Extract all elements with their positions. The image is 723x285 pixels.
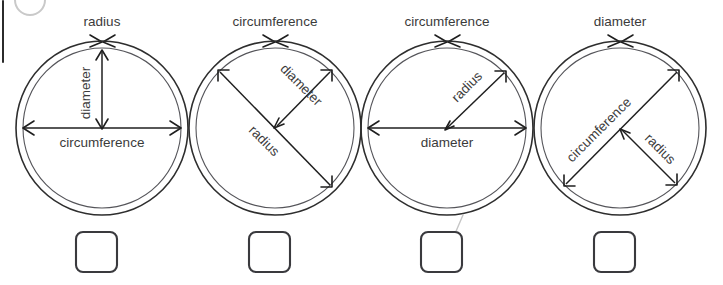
circle-figure-4: diameter circumference radius [530,0,710,285]
figure-1-horizontal-label: circumference [60,135,145,150]
figure-3-radius-label: radius [449,68,486,105]
figure-4-short-diagonal-label: radius [642,131,679,168]
figure-4-long-diagonal-arrow [566,72,677,184]
worksheet-page: radius diameter circumference [0,0,723,285]
scrollbar-sliver[interactable] [2,0,4,63]
figure-2-checkbox[interactable] [249,232,290,272]
circle-figure-2: circumference radius diameter [185,0,365,285]
circle-figure-1: radius diameter circumference [12,0,192,285]
figure-3-horizontal-label: diameter [421,135,474,150]
figure-3-top-label: circumference [405,14,490,29]
figure-2-top-label: circumference [233,14,318,29]
figure-1-top-label: radius [84,14,121,29]
figure-3-checkbox[interactable] [421,232,462,272]
figure-2-long-diagonal-label: radius [246,123,283,160]
figure-4-top-label: diameter [594,14,647,29]
figure-4-checkbox[interactable] [594,232,635,272]
figure-4-outer-ring [534,41,706,215]
figure-1-checkbox[interactable] [76,232,117,272]
figure-1-vertical-label: diameter [78,66,93,119]
circle-figure-3: circumference radius diameter [357,0,537,285]
